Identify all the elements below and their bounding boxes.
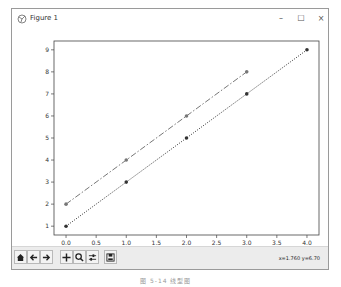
data-point-marker (305, 48, 309, 52)
arrow-left-icon (29, 253, 38, 262)
data-point-marker (124, 180, 128, 184)
data-point-marker (64, 202, 68, 206)
y-tick-label: 2 (45, 200, 49, 207)
data-point-marker (185, 114, 189, 118)
x-tick-label: 3.0 (242, 239, 252, 245)
y-tick-label: 4 (45, 156, 49, 163)
magnifier-icon (75, 253, 84, 262)
y-tick-label: 1 (45, 222, 49, 229)
maximize-button[interactable]: ☐ (294, 13, 308, 25)
y-tick-label: 3 (45, 178, 49, 185)
x-tick-label: 0.0 (61, 239, 71, 245)
plot-canvas[interactable]: 123456789 0.00.51.01.52.02.53.03.54.0 (12, 31, 328, 245)
x-axis: 0.00.51.01.52.02.53.03.54.0 (61, 235, 312, 245)
x-tick-label: 2.5 (212, 239, 222, 245)
chart: 123456789 0.00.51.01.52.02.53.03.54.0 (12, 31, 328, 245)
save-button[interactable] (104, 250, 117, 264)
minimize-button[interactable]: – (274, 13, 288, 25)
x-tick-label: 1.0 (121, 239, 131, 245)
y-tick-label: 7 (45, 90, 49, 97)
data-point-marker (245, 92, 249, 96)
x-tick-label: 1.5 (152, 239, 162, 245)
x-tick-label: 2.0 (182, 239, 192, 245)
y-tick-label: 9 (45, 46, 49, 53)
figure-window: Figure 1 – ☐ × 123456789 0.00.51.01.52.0… (11, 8, 329, 270)
home-icon (16, 253, 25, 262)
cursor-coordinates: x=1.760 y=6.70 (279, 255, 320, 261)
data-point-marker (185, 136, 189, 140)
close-button[interactable]: × (314, 13, 328, 25)
sliders-icon (88, 253, 97, 262)
back-button[interactable] (27, 250, 40, 264)
figure-caption: 图 5-14 线型图 (140, 276, 191, 285)
zoom-button[interactable] (73, 250, 86, 264)
data-point-marker (124, 158, 128, 162)
forward-button[interactable] (40, 250, 53, 264)
title-bar[interactable]: Figure 1 – ☐ × (12, 9, 328, 31)
y-axis: 123456789 (45, 46, 54, 229)
arrow-right-icon (42, 253, 51, 262)
y-tick-label: 5 (45, 134, 49, 141)
y-tick-label: 8 (45, 68, 49, 75)
data-point-marker (64, 224, 68, 228)
home-button[interactable] (14, 250, 27, 264)
pan-button[interactable] (60, 250, 73, 264)
move-icon (62, 253, 71, 262)
configure-subplots-button[interactable] (86, 250, 99, 264)
data-point-marker (245, 70, 249, 74)
navigation-toolbar: x=1.760 y=6.70 (12, 246, 328, 269)
y-tick-label: 6 (45, 112, 49, 119)
x-tick-label: 3.5 (272, 239, 282, 245)
x-tick-label: 0.5 (91, 239, 101, 245)
window-title: Figure 1 (30, 14, 58, 22)
matplotlib-logo-icon (17, 14, 27, 24)
floppy-disk-icon (106, 253, 115, 262)
x-tick-label: 4.0 (302, 239, 312, 245)
